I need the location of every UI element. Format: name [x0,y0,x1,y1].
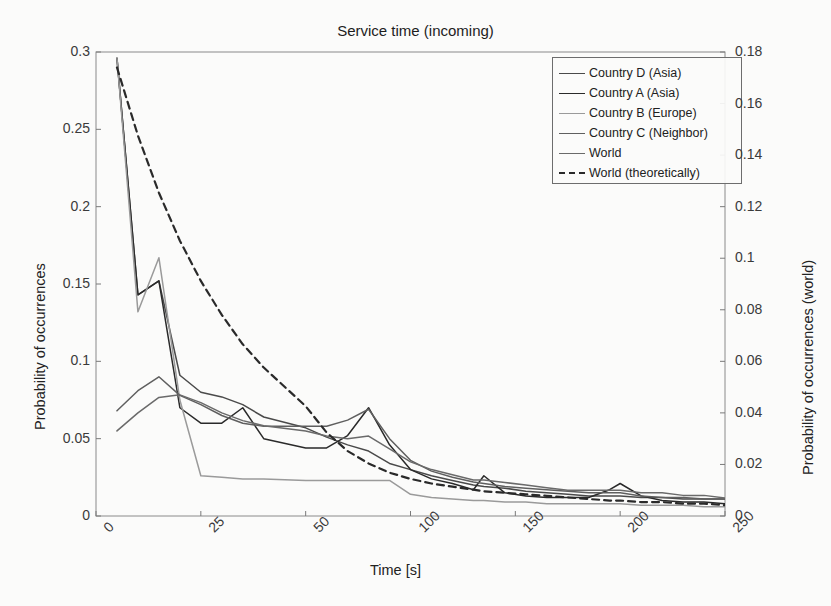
y-axis-left-tick-label: 0.15 [56,275,90,291]
chart-legend: Country D (Asia)Country A (Asia)Country … [552,57,742,184]
y-axis-left-tick-label: 0.2 [56,198,90,214]
y-axis-right-tick-label: 0.08 [735,301,762,317]
legend-label: World (theoretically) [589,167,700,180]
y-axis-right-tick-label: 0.06 [735,352,762,368]
legend-swatch-icon [559,133,585,134]
legend-swatch-icon [559,93,585,94]
legend-label: Country D (Asia) [589,67,681,80]
y-axis-right-tick-label: 0.16 [735,95,762,111]
legend-swatch-icon [559,73,585,74]
y-axis-right-title: Probability of occurrences (world) [800,260,816,475]
y-axis-right-tick-label: 0.12 [735,198,762,214]
y-axis-right-tick-label: 0 [735,507,743,523]
legend-label: World [589,147,621,160]
legend-item-4: World [553,143,741,163]
series-line-4 [117,395,725,498]
legend-item-3: Country C (Neighbor) [553,123,741,143]
y-axis-right-tick-label: 0.04 [735,404,762,420]
legend-swatch-icon [559,153,585,154]
y-axis-right-tick-label: 0.18 [735,43,762,59]
legend-item-0: Country D (Asia) [553,63,741,83]
legend-item-2: Country B (Europe) [553,103,741,123]
y-axis-left-title: Probability of occurrences [32,263,48,430]
y-axis-left-tick-label: 0.3 [56,43,90,59]
x-axis-title: Time [s] [370,562,421,578]
legend-swatch-icon [559,172,585,174]
y-axis-left-tick-label: 0.05 [56,430,90,446]
legend-label: Country B (Europe) [589,107,697,120]
y-axis-left-tick-label: 0 [56,507,90,523]
y-axis-right-tick-label: 0.02 [735,455,762,471]
legend-swatch-icon [559,113,585,114]
y-axis-left-tick-label: 0.1 [56,352,90,368]
legend-item-1: Country A (Asia) [553,83,741,103]
y-axis-right-tick-label: 0.14 [735,146,762,162]
legend-label: Country C (Neighbor) [589,127,708,140]
y-axis-right-tick-label: 0.1 [735,249,754,265]
y-axis-left-tick-label: 0.25 [56,120,90,136]
legend-label: Country A (Asia) [589,87,679,100]
legend-item-5: World (theoretically) [553,163,741,183]
